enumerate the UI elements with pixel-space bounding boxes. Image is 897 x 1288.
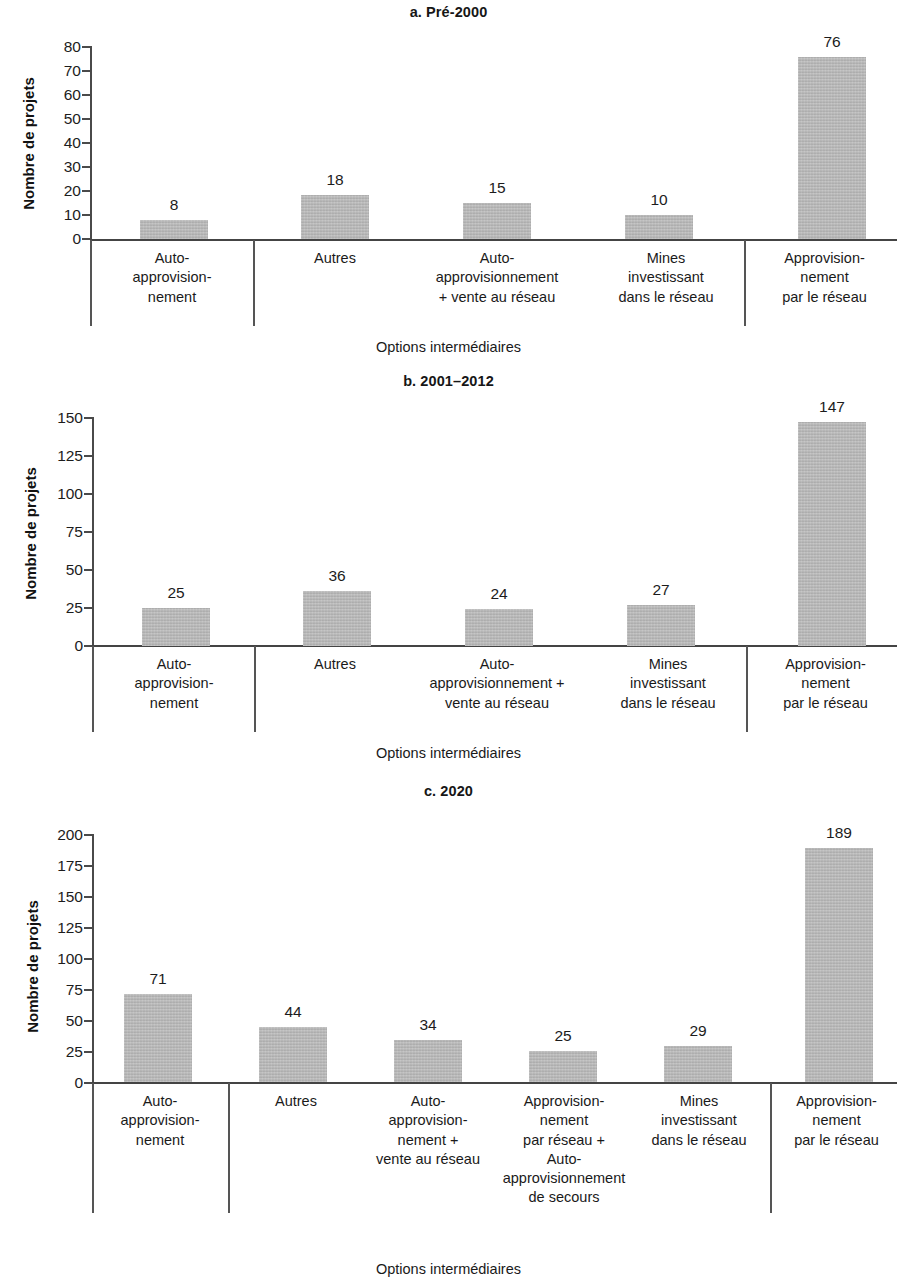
category-label-line: Approvision- — [486, 1092, 642, 1111]
panel-c-plot: Nombre de projets 200 175 150 125 100 75… — [0, 780, 897, 1288]
y-tick-label: 75 — [0, 524, 90, 540]
y-tick-label: 70 — [0, 63, 88, 79]
category-label: Auto- approvision- nement + vente au rés… — [358, 1092, 498, 1169]
category-label-line: nement — [486, 1111, 642, 1130]
bar-value-label: 25 — [142, 584, 210, 602]
category-label: Auto- approvision- nement — [98, 655, 250, 713]
category-label-line: Auto- — [98, 655, 250, 674]
y-tick-label: 100 — [0, 486, 90, 502]
category-label-line: vente au réseau — [404, 694, 590, 713]
y-axis-line — [90, 46, 92, 240]
bar-autres — [303, 591, 371, 646]
y-tick-label: 125 — [0, 920, 90, 936]
category-label: Auto- approvisionnement + vente au résea… — [408, 249, 586, 307]
category-label-line: Mines — [592, 655, 744, 674]
category-label-line: Autres — [260, 655, 410, 674]
y-tick-label: 50 — [0, 111, 88, 127]
category-label-line: Approvision- — [754, 655, 897, 674]
panel-c-2020: c. 2020 Nombre de projets 200 175 150 12… — [0, 780, 897, 1288]
category-label-line: approvision- — [96, 268, 248, 287]
y-tick-label: 80 — [0, 39, 88, 55]
y-tick-label: 25 — [0, 600, 90, 616]
category-label: Mines investissant dans le réseau — [590, 249, 742, 307]
y-tick-label: 30 — [0, 159, 88, 175]
bar-value-label: 10 — [625, 191, 693, 209]
category-label-line: nement — [776, 1111, 897, 1130]
panel-c-x-axis-label: Options intermédiaires — [0, 1261, 897, 1277]
bar-approvisionnement-reseau — [798, 422, 866, 646]
category-label-line: nement — [98, 694, 250, 713]
category-label-line: Autres — [258, 249, 412, 268]
category-label-line: approvision- — [98, 674, 250, 693]
y-tick-label: 150 — [0, 889, 90, 905]
panel-a-pre-2000: a. Pré-2000 Nombre de projets 80 70 60 5… — [0, 0, 897, 370]
category-label-line: nement — [96, 1131, 224, 1150]
category-label-line: investissant — [630, 1111, 768, 1130]
bar-value-label: 71 — [124, 970, 192, 988]
category-label-line: Auto- — [96, 1092, 224, 1111]
bar-auto-approvisionnement-vente — [463, 203, 531, 239]
category-separator — [92, 646, 94, 732]
bar-value-label: 29 — [664, 1022, 732, 1040]
bar-value-label: 76 — [798, 33, 866, 51]
y-tick-label: 60 — [0, 87, 88, 103]
category-label-line: par le réseau — [754, 694, 897, 713]
category-separator — [228, 1083, 230, 1213]
category-label-line: nement — [754, 674, 897, 693]
bar-value-label: 189 — [805, 824, 873, 842]
category-label: Auto- approvision- nement — [96, 249, 248, 307]
y-axis-line — [92, 834, 94, 1083]
bar-approvisionnement-reseau — [798, 57, 866, 239]
panel-b-2001-2012: b. 2001–2012 Nombre de projets 150 125 1… — [0, 370, 897, 780]
y-tick-label: 100 — [0, 951, 90, 967]
y-tick-label: 200 — [0, 827, 90, 843]
category-label-line: approvisionnement — [408, 268, 586, 287]
category-label-line: vente au réseau — [358, 1150, 498, 1169]
category-label-line: Approvision- — [776, 1092, 897, 1111]
category-label: Approvision- nement par le réseau — [754, 655, 897, 713]
category-label-line: Mines — [630, 1092, 768, 1111]
category-separator — [92, 1083, 94, 1213]
bar-value-label: 44 — [259, 1003, 327, 1021]
category-label-line: approvisionnement — [486, 1169, 642, 1188]
y-tick-label: 50 — [0, 1013, 90, 1029]
y-axis-line — [92, 417, 94, 646]
panel-a-x-axis-label: Options intermédiaires — [0, 339, 897, 355]
bar-value-label: 36 — [303, 567, 371, 585]
category-label: Auto- approvision- nement — [96, 1092, 224, 1150]
bar-value-label: 27 — [627, 581, 695, 599]
category-separator — [770, 1083, 772, 1213]
panel-a-plot: Nombre de projets 80 70 60 50 40 30 20 1… — [0, 0, 897, 370]
bar-auto-approvisionnement-vente — [394, 1040, 462, 1082]
bar-auto-approvisionnement-vente — [465, 609, 533, 646]
category-label-line: investissant — [592, 674, 744, 693]
category-label: Approvision- nement par réseau + Auto- a… — [486, 1092, 642, 1208]
category-label-line: Auto- — [96, 249, 248, 268]
category-label: Approvision- nement par le réseau — [776, 1092, 897, 1150]
y-tick-label: 50 — [0, 562, 90, 578]
category-label-line: Auto- — [408, 249, 586, 268]
category-label-line: Approvision- — [752, 249, 897, 268]
x-axis-line — [90, 239, 897, 241]
panel-b-plot: Nombre de projets 150 125 100 75 50 25 0… — [0, 370, 897, 780]
bar-approvisionnement-reseau — [805, 848, 873, 1082]
category-label-line: dans le réseau — [590, 288, 742, 307]
bar-auto-approvisionnement — [140, 220, 208, 239]
category-label-line: Auto- — [358, 1092, 498, 1111]
bar-mines-investissant — [664, 1046, 732, 1082]
bar-mines-investissant — [625, 215, 693, 239]
category-label-line: par réseau + — [486, 1131, 642, 1150]
bar-value-label: 18 — [301, 171, 369, 189]
bar-autres — [301, 195, 369, 239]
category-label-line: approvision- — [358, 1111, 498, 1130]
bar-mines-investissant — [627, 605, 695, 646]
bar-autres — [259, 1027, 327, 1082]
category-label: Auto- approvisionnement + vente au résea… — [404, 655, 590, 713]
category-label-line: dans le réseau — [592, 694, 744, 713]
y-tick-label: 25 — [0, 1044, 90, 1060]
category-label: Mines investissant dans le réseau — [630, 1092, 768, 1150]
y-tick-label: 175 — [0, 858, 90, 874]
panel-b-x-axis-label: Options intermédiaires — [0, 745, 897, 761]
category-separator — [744, 240, 746, 326]
bar-value-label: 8 — [140, 196, 208, 214]
